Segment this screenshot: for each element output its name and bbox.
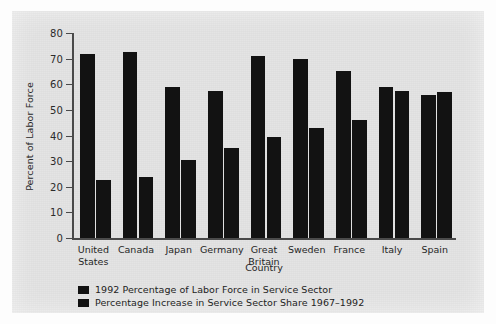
- y-axis-line: [72, 33, 74, 240]
- y-tick-label: 30: [50, 156, 63, 167]
- bar-germany-series-1: [208, 91, 223, 238]
- y-tick-mark: [66, 136, 73, 137]
- x-label-japan: Japan: [157, 244, 200, 256]
- bar-group-united-states: [80, 33, 111, 238]
- y-tick-label: 80: [50, 28, 63, 39]
- bar-spain-series-1: [421, 95, 436, 239]
- bar-sweden-series-2: [309, 128, 324, 238]
- bar-canada-series-1: [123, 52, 138, 238]
- bar-united-states-series-2: [96, 180, 111, 238]
- bar-france-series-1: [336, 71, 351, 238]
- x-label-spain: Spain: [413, 244, 456, 256]
- legend-item-1: 1992 Percentage of Labor Force in Servic…: [78, 283, 364, 296]
- x-label-canada: Canada: [115, 244, 158, 256]
- y-axis-title: Percent of Labor Force: [22, 33, 36, 240]
- y-tick-label: 20: [50, 181, 63, 192]
- y-tick-mark: [66, 59, 73, 60]
- x-axis-line: [72, 238, 456, 240]
- y-tick-mark: [66, 238, 73, 239]
- bar-spain-series-2: [437, 92, 452, 238]
- bar-italy-series-2: [395, 91, 410, 238]
- bar-group-spain: [421, 33, 452, 238]
- bar-group-france: [336, 33, 367, 238]
- bar-great-britain-series-1: [251, 56, 266, 238]
- bar-group-canada: [123, 33, 154, 238]
- y-tick-label: 60: [50, 79, 63, 90]
- x-label-sweden: Sweden: [285, 244, 328, 256]
- y-tick-mark: [66, 33, 73, 34]
- plot-area: 01020304050607080 United StatesCanadaJap…: [72, 33, 456, 240]
- bar-france-series-2: [352, 120, 367, 238]
- legend-swatch-1: [78, 286, 89, 294]
- legend-label-2: Percentage Increase in Service Sector Sh…: [95, 297, 364, 308]
- bar-group-sweden: [293, 33, 324, 238]
- y-tick-mark: [66, 110, 73, 111]
- x-label-italy: Italy: [371, 244, 414, 256]
- y-tick-label: 70: [50, 53, 63, 64]
- legend-label-1: 1992 Percentage of Labor Force in Servic…: [95, 284, 332, 295]
- bar-italy-series-1: [379, 87, 394, 238]
- chart-legend: 1992 Percentage of Labor Force in Servic…: [78, 283, 364, 309]
- legend-swatch-2: [78, 299, 89, 307]
- bar-group-great-britain: [251, 33, 282, 238]
- y-tick-mark: [66, 84, 73, 85]
- bar-group-germany: [208, 33, 239, 238]
- figure-container: Percent of Labor Force 01020304050607080…: [0, 0, 496, 324]
- legend-item-2: Percentage Increase in Service Sector Sh…: [78, 296, 364, 309]
- y-tick-label: 0: [56, 233, 63, 244]
- bar-canada-series-2: [139, 177, 154, 239]
- y-axis-title-label: Percent of Labor Force: [24, 82, 35, 191]
- bar-germany-series-2: [224, 148, 239, 238]
- y-tick-label: 10: [50, 207, 63, 218]
- bar-group-japan: [165, 33, 196, 238]
- x-axis-title: Country: [72, 262, 456, 273]
- y-tick-label: 40: [50, 130, 63, 141]
- y-tick-label: 50: [50, 104, 63, 115]
- x-label-germany: Germany: [200, 244, 243, 256]
- bar-japan-series-2: [181, 160, 196, 238]
- y-tick-mark: [66, 161, 73, 162]
- x-label-france: France: [328, 244, 371, 256]
- bar-group-italy: [379, 33, 410, 238]
- y-tick-mark: [66, 187, 73, 188]
- bar-sweden-series-1: [293, 59, 308, 238]
- y-tick-mark: [66, 212, 73, 213]
- bar-great-britain-series-2: [267, 137, 282, 238]
- bar-united-states-series-1: [80, 54, 95, 239]
- bar-japan-series-1: [165, 87, 180, 238]
